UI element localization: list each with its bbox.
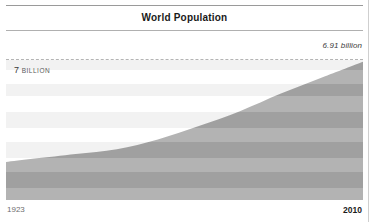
- x-axis-label-start: 1923: [7, 205, 25, 214]
- chart-page: World Population 6.91 billion 7 BILLION …: [0, 0, 381, 222]
- y-axis-reference-number: 7: [14, 65, 19, 75]
- reference-value-label: 6.91 billion: [323, 41, 362, 50]
- chart-title: World Population: [6, 11, 363, 25]
- area-band: [6, 112, 363, 128]
- x-axis-label-end: 2010: [343, 205, 362, 215]
- area-band: [6, 84, 363, 96]
- plot-area: [6, 60, 363, 200]
- area-band: [6, 142, 363, 158]
- area-band: [6, 158, 363, 172]
- header-rule-bottom: [6, 30, 363, 31]
- y-axis-reference-label: 7 BILLION: [14, 65, 50, 75]
- area-band: [6, 70, 363, 84]
- area-band: [6, 96, 363, 112]
- population-area-series: [6, 60, 363, 200]
- y-axis-reference-unit: BILLION: [22, 67, 50, 74]
- page-border: [368, 0, 369, 222]
- area-band: [6, 172, 363, 188]
- area-band: [6, 128, 363, 142]
- area-band: [6, 188, 363, 200]
- area-band: [6, 60, 363, 70]
- header-rule-top: [6, 5, 363, 6]
